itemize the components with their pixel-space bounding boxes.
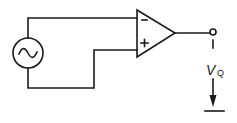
output-voltage-subscript: Q <box>217 68 224 78</box>
sine-wave-icon <box>19 49 37 58</box>
wire-to-inverting-input <box>28 18 137 38</box>
circuit-diagram: V Q <box>0 0 237 123</box>
opamp <box>137 10 175 57</box>
noninverting-input-plus-icon <box>141 40 148 47</box>
wire-to-noninverting-input <box>28 50 137 88</box>
arrow-down-icon <box>210 95 217 107</box>
output-voltage-label: V <box>206 62 217 78</box>
output-terminal <box>210 29 216 35</box>
opamp-triangle <box>137 10 175 57</box>
ac-source <box>13 38 43 68</box>
